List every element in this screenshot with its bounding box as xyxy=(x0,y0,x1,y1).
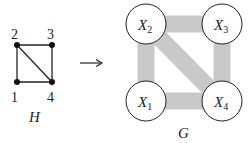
node-label-2: 2 xyxy=(11,27,18,42)
caption-h: H xyxy=(28,109,41,125)
node-x2: X2 xyxy=(126,4,166,44)
node-1 xyxy=(14,79,20,85)
node-3 xyxy=(49,42,55,48)
node-label-3: 3 xyxy=(47,27,54,42)
graph-diagram: 2 3 1 4 H X2 X3 X1 X4 xyxy=(0,0,251,143)
caption-g: G xyxy=(178,125,189,141)
graph-g: X2 X3 X1 X4 G xyxy=(126,4,242,141)
edge-2-4 xyxy=(17,45,52,82)
node-label-4: 4 xyxy=(47,90,54,105)
node-x1: X1 xyxy=(126,81,166,121)
graph-h: 2 3 1 4 H xyxy=(11,27,55,125)
node-4 xyxy=(49,79,55,85)
node-x4: X4 xyxy=(202,81,242,121)
mapping-arrow xyxy=(80,60,102,67)
node-label-1: 1 xyxy=(11,90,18,105)
node-2 xyxy=(14,42,20,48)
node-x3: X3 xyxy=(202,4,242,44)
